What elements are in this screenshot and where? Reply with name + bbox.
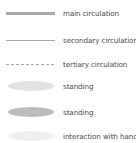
legend-item-main-circulation: main circulation	[0, 3, 136, 23]
faint-ellipse-icon	[8, 131, 54, 141]
dark-ellipse-icon	[8, 107, 54, 117]
legend-item-interaction-with-hands: interaction with hands	[0, 126, 136, 143]
light-ellipse-icon	[8, 81, 54, 91]
legend-item-standing-dark: standing	[0, 102, 136, 122]
legend-label: interaction with hands	[63, 132, 136, 141]
legend-label: secondary circulation	[63, 36, 136, 45]
legend-label: standing	[63, 108, 93, 117]
legend-label: main circulation	[63, 9, 119, 18]
thick-line-icon	[6, 12, 55, 15]
dashed-line-icon	[6, 64, 55, 65]
legend-item-tertiary-circulation: tertiary circulation	[0, 54, 136, 74]
thin-line-icon	[6, 40, 55, 41]
legend-item-secondary-circulation: secondary circulation	[0, 30, 136, 50]
legend-label: standing	[63, 82, 93, 91]
legend-item-standing-light: standing	[0, 76, 136, 96]
legend-label: tertiary circulation	[63, 60, 127, 69]
